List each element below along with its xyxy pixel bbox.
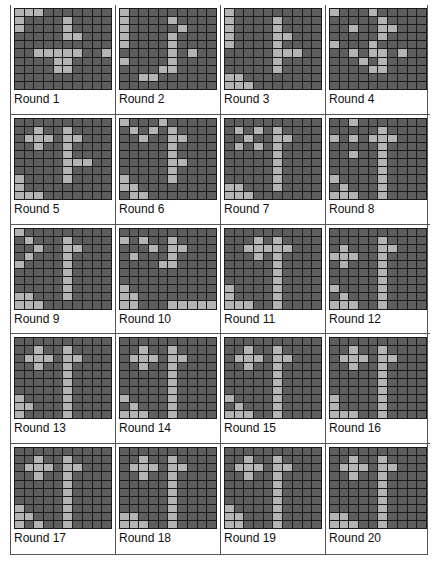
grid-cell-off (149, 237, 158, 244)
grid-cell-off (312, 293, 321, 300)
grid-cell-off (178, 489, 187, 496)
grid-cell-off (159, 285, 168, 292)
grid-cell-off (244, 41, 253, 48)
grid-cell-off (312, 269, 321, 276)
grid-cell-off (102, 472, 111, 479)
grid-cell-off (340, 25, 349, 32)
grid-cell-off (168, 74, 177, 81)
grid-cell-on (139, 411, 148, 418)
grid-cell-off (188, 151, 197, 158)
grid-cell-off (264, 229, 273, 236)
grid-cell-off (330, 489, 339, 496)
grid-cell-off (417, 25, 426, 32)
grid-cell-off (207, 489, 216, 496)
grid-cell-off (312, 513, 321, 520)
grid-cell-off (44, 58, 53, 65)
grid-cell-off (254, 481, 263, 488)
grid-cell-on (63, 58, 72, 65)
grid-cell-off (207, 41, 216, 48)
grid-cell-off (102, 521, 111, 528)
grid-cell-off (293, 355, 302, 362)
grid-cell-off (349, 489, 358, 496)
grid-cell-off (44, 269, 53, 276)
grid-cell-off (102, 74, 111, 81)
grid-cell-off (188, 253, 197, 260)
grid-cell-off (398, 285, 407, 292)
grid-cell-off (93, 293, 102, 300)
grid-cell-off (102, 192, 111, 199)
grid-cell-off (408, 25, 417, 32)
grid-cell-off (188, 521, 197, 528)
grid-cell-off (93, 285, 102, 292)
grid-cell-off (63, 448, 72, 455)
grid-cell-off (188, 403, 197, 410)
grid-cell-off (273, 448, 282, 455)
grid-cell-on (168, 513, 177, 520)
grid-cell-off (139, 301, 148, 308)
grid-cell-off (178, 74, 187, 81)
grid-cell-off (207, 119, 216, 126)
grid-cell-off (312, 285, 321, 292)
grid-cell-off (159, 192, 168, 199)
grid-cell-off (283, 338, 292, 345)
grid-cell-off (83, 456, 92, 463)
grid-cell-off (44, 184, 53, 191)
grid-cell-off (398, 456, 407, 463)
grid-cell-off (293, 9, 302, 16)
grid-cell-on (225, 301, 234, 308)
grid-cell-off (168, 338, 177, 345)
grid-cell-off (178, 379, 187, 386)
grid-cell-on (340, 261, 349, 268)
grid-cell-off (369, 464, 378, 471)
grid-cell-off (225, 472, 234, 479)
grid-cell-off (408, 363, 417, 370)
grid-cell-off (44, 41, 53, 48)
grid-cell-on (15, 403, 24, 410)
grid-cell-off (359, 253, 368, 260)
grid-cell-off (293, 269, 302, 276)
grid-cell-off (25, 505, 34, 512)
grid-cell-off (283, 151, 292, 158)
grid-cell-off (149, 151, 158, 158)
grid-cell-on (120, 41, 129, 48)
grid-cell-off (359, 74, 368, 81)
grid-cell-on (283, 135, 292, 142)
grid-cell-off (340, 472, 349, 479)
grid-cell-off (54, 119, 63, 126)
grid-cell-off (198, 245, 207, 252)
grid-cell-off (34, 184, 43, 191)
grid-cell-off (139, 403, 148, 410)
grid-cell-on (168, 66, 177, 73)
grid-cell-off (312, 9, 321, 16)
grid-cell-off (244, 229, 253, 236)
grid-cell-off (312, 363, 321, 370)
grid-cell-off (398, 253, 407, 260)
grid-cell-off (330, 184, 339, 191)
grid-cell-off (15, 363, 24, 370)
grid-cell-off (139, 285, 148, 292)
grid-cell-on (349, 49, 358, 56)
grid-cell-off (54, 387, 63, 394)
grid-cell-off (417, 245, 426, 252)
grid-cell-off (15, 167, 24, 174)
grid-cell-off (283, 143, 292, 150)
round-panel: Round 19 (221, 444, 326, 554)
grid-cell-off (264, 269, 273, 276)
grid-cell-off (340, 135, 349, 142)
grid-cell-off (178, 119, 187, 126)
grid-cell-off (330, 229, 339, 236)
grid-cell-off (244, 25, 253, 32)
grid-cell-on (359, 58, 368, 65)
grid-cell-off (225, 49, 234, 56)
grid-cell-on (198, 301, 207, 308)
grid-cell-off (159, 346, 168, 353)
grid-cell-off (340, 489, 349, 496)
grid-cell-off (398, 229, 407, 236)
grid-cell-off (369, 513, 378, 520)
grid-cell-off (139, 25, 148, 32)
grid-cell-off (188, 175, 197, 182)
grid-cell-off (130, 363, 139, 370)
grid-cell-on (388, 25, 397, 32)
grid-cell-off (264, 192, 273, 199)
grid-cell-on (378, 184, 387, 191)
